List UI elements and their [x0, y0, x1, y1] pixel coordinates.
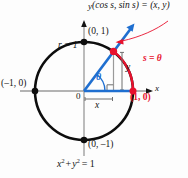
theta-label: θ [96, 72, 101, 82]
equation-plus: + [66, 158, 72, 169]
equation-eq: = 1 [82, 158, 95, 169]
circle-equation: x2+y2= 1 [57, 158, 95, 169]
leg-y-label: y [126, 63, 130, 73]
point-left [32, 88, 39, 95]
left-point-label: (–1, 0) [1, 79, 26, 89]
axis-x-label: x [155, 84, 159, 93]
point-on-circle [110, 48, 117, 55]
equation-exp-y: 2 [77, 157, 80, 164]
terminal-ray [84, 27, 132, 91]
bottom-point-label: (0, –1) [88, 140, 113, 150]
point-top [81, 39, 88, 46]
equation-exp-x: 2 [61, 157, 64, 164]
radius-label: r = 1 [58, 41, 78, 51]
arc-label: s = θ [143, 54, 162, 64]
point-coordinate-text: (cos s, sin s) = (x, y) [92, 0, 170, 10]
point-coordinate-label: (cos s, sin s) = (x, y) [92, 1, 170, 11]
y-axis-arrowhead [81, 20, 87, 27]
origin-label: 0 [76, 92, 81, 101]
point-bottom [81, 137, 88, 144]
right-point-label: (1, 0) [130, 93, 151, 103]
top-point-label: (0, 1) [88, 27, 109, 37]
leg-x-label: x [95, 101, 99, 111]
